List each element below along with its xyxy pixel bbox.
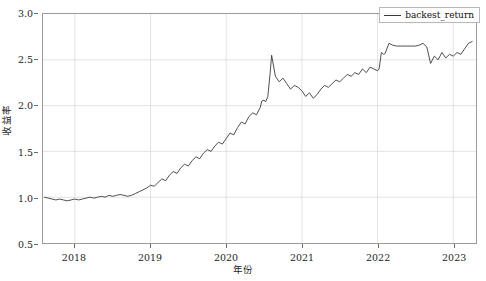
x-tick-mark [150, 244, 151, 248]
y-tick-mark [34, 244, 38, 245]
x-tick-mark [454, 244, 455, 248]
chart-legend: backest_return [379, 7, 480, 23]
plot-area [42, 13, 477, 244]
y-tick-mark [34, 13, 38, 14]
y-tick-label: 1.0 [18, 192, 33, 203]
y-tick-mark [34, 59, 38, 60]
y-tick-label: 2.0 [18, 100, 33, 111]
y-tick-label: 1.5 [18, 146, 33, 157]
y-axis-label: 收益率 [0, 90, 13, 150]
y-tick-mark [34, 198, 38, 199]
y-tick-mark [34, 152, 38, 153]
y-tick-label: 3.0 [18, 8, 33, 19]
x-tick-mark [302, 244, 303, 248]
x-tick-mark [226, 244, 227, 248]
legend-label: backest_return [405, 10, 474, 20]
y-tick-mark [34, 105, 38, 106]
x-tick-mark [378, 244, 379, 248]
series-backest-return [43, 14, 476, 243]
y-tick-label: 0.5 [18, 239, 33, 250]
y-tick-label: 2.5 [18, 54, 33, 65]
chart-figure: 0.51.01.52.02.53.0 收益率 20182019202020212… [0, 0, 486, 281]
x-axis-tick-labels: 201820192020202120222023 [42, 248, 477, 262]
legend-line-swatch [384, 15, 401, 16]
x-tick-mark [74, 244, 75, 248]
x-axis-label: 年份 [0, 262, 486, 276]
